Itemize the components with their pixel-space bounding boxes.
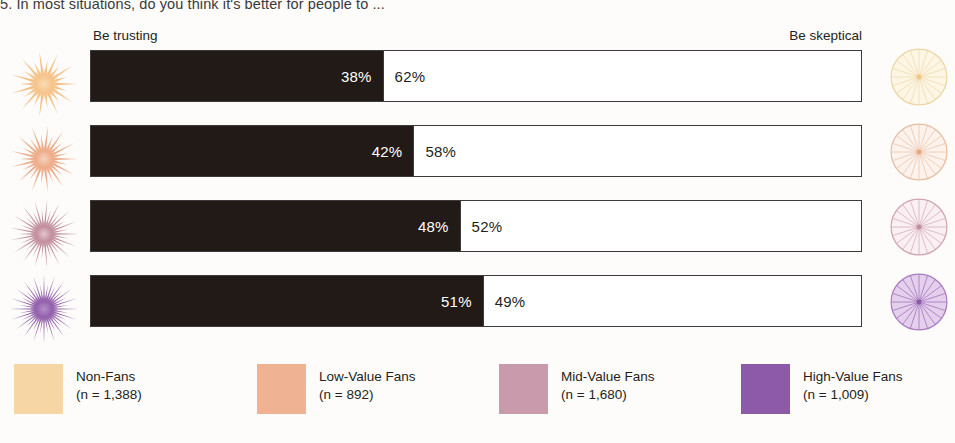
bar-segment-skeptical[interactable]: 58%: [414, 126, 861, 176]
bar-segment-skeptical[interactable]: 52%: [461, 201, 861, 251]
bar-segment-trusting[interactable]: 48%: [91, 201, 461, 251]
legend-label-name: Mid-Value Fans: [561, 369, 655, 384]
table-row[interactable]: 38% 62%: [90, 50, 862, 102]
bar-value-trusting: 51%: [441, 293, 472, 310]
table-row[interactable]: 42% 58%: [90, 125, 862, 177]
bar-value-trusting: 38%: [341, 68, 372, 85]
page-title: 5. In most situations, do you think it's…: [0, 0, 700, 12]
table-row[interactable]: 48% 52%: [90, 200, 862, 252]
wheel-icon-non-fans: [888, 46, 950, 108]
axis-label-be-skeptical: Be skeptical: [770, 28, 862, 43]
bar-segment-trusting[interactable]: 51%: [91, 276, 484, 326]
legend-label-name: Low-Value Fans: [319, 369, 416, 384]
legend-label-count: (n = 1,388): [76, 386, 142, 404]
legend-swatch: [499, 364, 548, 414]
bar-value-skeptical: 52%: [472, 218, 503, 235]
legend-label: Non-Fans (n = 1,388): [76, 368, 142, 404]
bar-segment-trusting[interactable]: 38%: [91, 51, 384, 101]
legend-label-name: Non-Fans: [76, 369, 135, 384]
bar-value-trusting: 42%: [372, 143, 403, 160]
axis-label-be-trusting: Be trusting: [93, 28, 158, 43]
starburst-icon-high-value-fans: [8, 273, 80, 345]
legend-label-count: (n = 1,009): [803, 386, 903, 404]
bar-segment-skeptical[interactable]: 49%: [484, 276, 861, 326]
table-row[interactable]: 51% 49%: [90, 275, 862, 327]
legend-label-name: High-Value Fans: [803, 369, 903, 384]
legend-label: Low-Value Fans (n = 892): [319, 368, 416, 404]
legend-label-count: (n = 892): [319, 386, 416, 404]
wheel-icon-mid-value-fans: [888, 196, 950, 258]
bar-value-skeptical: 58%: [425, 143, 456, 160]
legend-label-count: (n = 1,680): [561, 386, 655, 404]
starburst-icon-non-fans: [8, 48, 80, 120]
bar-segment-trusting[interactable]: 42%: [91, 126, 414, 176]
legend: Non-Fans (n = 1,388) Low-Value Fans (n =…: [14, 364, 944, 426]
legend-swatch: [257, 364, 306, 414]
legend-swatch: [14, 364, 63, 414]
wheel-icon-high-value-fans: [888, 271, 950, 333]
legend-label: High-Value Fans (n = 1,009): [803, 368, 903, 404]
bar-value-trusting: 48%: [418, 218, 449, 235]
bar-segment-skeptical[interactable]: 62%: [384, 51, 861, 101]
legend-swatch: [741, 364, 790, 414]
bar-value-skeptical: 62%: [395, 68, 426, 85]
starburst-icon-low-value-fans: [8, 123, 80, 195]
bar-value-skeptical: 49%: [495, 293, 526, 310]
legend-label: Mid-Value Fans (n = 1,680): [561, 368, 655, 404]
wheel-icon-low-value-fans: [888, 121, 950, 183]
starburst-icon-mid-value-fans: [8, 198, 80, 270]
